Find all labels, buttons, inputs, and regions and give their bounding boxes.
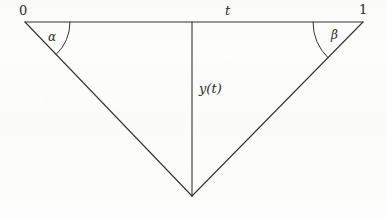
label-left-endpoint-zero: 0 (19, 4, 27, 17)
label-base-point-t: t (225, 4, 230, 17)
label-angle-alpha: α (48, 31, 56, 43)
label-vertical-segment-yt: y(t) (199, 82, 222, 95)
label-right-endpoint-one: 1 (359, 3, 367, 16)
angle-arc-beta (313, 22, 328, 58)
angle-arc-alpha (56, 22, 70, 54)
label-angle-beta: β (331, 29, 338, 41)
figure-container: 0 1 t y(t) α β (0, 0, 387, 219)
right-side-line (192, 22, 363, 196)
left-side-line (25, 22, 192, 196)
triangle-diagram-svg (0, 0, 387, 219)
